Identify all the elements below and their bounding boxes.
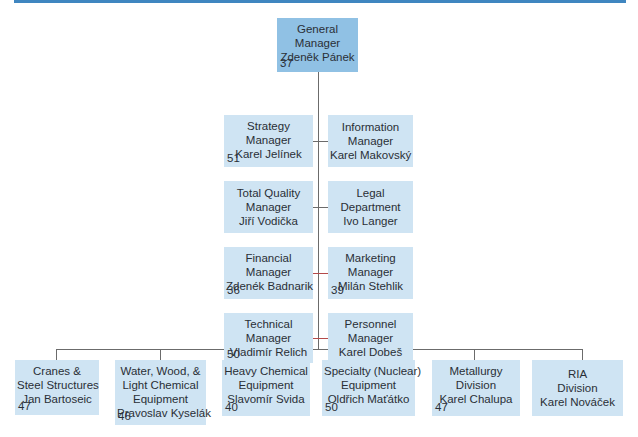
org-node-personnel-manager[interactable]: Personnel Manager Karel Dobeš xyxy=(328,313,413,363)
drop-line-1 xyxy=(56,349,57,360)
node-title: Legal xyxy=(330,186,411,200)
node-title: Manager xyxy=(226,331,311,345)
node-title: Manager xyxy=(226,265,311,279)
node-title: Manager xyxy=(226,200,311,214)
node-number: 51 xyxy=(227,152,240,165)
org-node-total-quality-manager[interactable]: Total Quality Manager Jiří Vodička xyxy=(224,181,313,233)
org-node-strategy-manager[interactable]: Strategy Manager Karel Jelínek 51 xyxy=(224,115,313,167)
node-number: 36 xyxy=(227,284,240,297)
node-title: Heavy Chemical xyxy=(224,364,308,378)
node-title: Cranes & xyxy=(17,364,97,378)
node-title: Equipment xyxy=(224,378,308,392)
node-number: 39 xyxy=(331,284,344,297)
node-title: Specialty (Nuclear) xyxy=(324,364,413,378)
node-number: 50 xyxy=(325,401,338,414)
trunk-line xyxy=(318,72,319,350)
node-number: 46 xyxy=(118,410,131,423)
drop-line-6 xyxy=(582,349,583,360)
node-person: Ivo Langer xyxy=(330,214,411,228)
org-node-division-specialty-nuclear[interactable]: Specialty (Nuclear) Equipment Oldřich Ma… xyxy=(322,360,415,416)
node-person: Karel Dobeš xyxy=(330,345,411,359)
node-title: Water, Wood, & xyxy=(117,364,204,378)
branch-line-row4 xyxy=(313,338,328,339)
node-title: Equipment xyxy=(117,392,204,406)
org-node-division-heavy-chemical[interactable]: Heavy Chemical Equipment Slavomír Svida … xyxy=(222,360,310,416)
org-node-financial-manager[interactable]: Financial Manager Zdenék Badnarik 36 xyxy=(224,247,313,299)
org-node-division-water-wood[interactable]: Water, Wood, & Light Chemical Equipment … xyxy=(115,360,206,425)
org-node-marketing-manager[interactable]: Marketing Manager Milán Stehlik 39 xyxy=(328,247,413,299)
node-title: Manager xyxy=(279,36,356,50)
branch-line-row1 xyxy=(313,141,328,142)
node-person: Jiří Vodička xyxy=(226,214,311,228)
node-title: Department xyxy=(330,200,411,214)
node-title: Division xyxy=(534,381,621,395)
node-title: RIA xyxy=(534,367,621,381)
node-title: Information xyxy=(330,120,411,134)
node-title: Metallurgy xyxy=(434,364,518,378)
node-person: Karel Makovský xyxy=(330,148,411,162)
node-title: Manager xyxy=(330,134,411,148)
node-number: 47 xyxy=(18,400,31,413)
node-title: Financial xyxy=(226,251,311,265)
org-node-legal-department[interactable]: Legal Department Ivo Langer xyxy=(328,181,413,233)
node-number: 47 xyxy=(435,401,448,414)
node-title: General xyxy=(279,22,356,36)
top-rule xyxy=(14,0,626,3)
node-title: Manager xyxy=(330,265,411,279)
org-node-division-cranes[interactable]: Cranes & Steel Structures Jan Bartoseic … xyxy=(15,360,99,415)
division-bus-line xyxy=(56,349,583,350)
node-title: Technical xyxy=(226,317,311,331)
org-node-division-metallurgy[interactable]: Metallurgy Division Karel Chalupa 47 xyxy=(432,360,520,416)
branch-line-row3 xyxy=(313,273,328,274)
node-title: Manager xyxy=(330,331,411,345)
org-node-information-manager[interactable]: Information Manager Karel Makovský xyxy=(328,115,413,167)
node-number: 40 xyxy=(225,401,238,414)
node-title: Equipment xyxy=(324,378,413,392)
node-title: Total Quality xyxy=(226,186,311,200)
node-title: Personnel xyxy=(330,317,411,331)
node-title: Manager xyxy=(226,133,311,147)
node-number: 37 xyxy=(280,57,293,70)
org-node-technical-manager[interactable]: Technical Manager Vladimír Relich 50 xyxy=(224,313,313,363)
node-person: Karel Nováček xyxy=(534,395,621,409)
node-title: Marketing xyxy=(330,251,411,265)
branch-line-row2 xyxy=(313,207,328,208)
node-title: Steel Structures xyxy=(17,378,97,392)
org-node-division-ria[interactable]: RIA Division Karel Nováček xyxy=(532,360,623,416)
drop-line-2 xyxy=(160,349,161,360)
drop-line-5 xyxy=(474,349,475,360)
node-title: Strategy xyxy=(226,119,311,133)
org-node-general-manager[interactable]: General Manager Zdeněk Pánek 37 xyxy=(277,18,358,72)
node-title: Light Chemical xyxy=(117,378,204,392)
node-title: Division xyxy=(434,378,518,392)
